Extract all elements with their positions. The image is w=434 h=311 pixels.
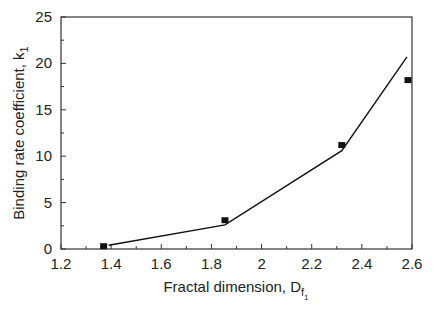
y-tick-label: 0 (44, 240, 52, 257)
y-tick-label: 5 (44, 194, 52, 211)
x-tick-label: 2.2 (301, 255, 322, 272)
x-tick-label: 1.2 (51, 255, 72, 272)
x-tick-label: 2.6 (402, 255, 423, 272)
chart: 1.21.41.61.822.22.42.6 0510152025 Fracta… (0, 0, 434, 311)
y-axis-title: Binding rate coefficient, k1 (10, 46, 30, 219)
x-tick-label: 1.6 (151, 255, 172, 272)
x-tick-label: 2.4 (351, 255, 372, 272)
x-axis-title: Fractal dimension, Df1 (163, 278, 309, 302)
data-point-square (221, 217, 228, 223)
data-points (100, 77, 411, 249)
plot-frame (61, 17, 412, 249)
y-tick-label: 10 (35, 147, 52, 164)
x-tick-label: 1.4 (101, 255, 122, 272)
data-point-square (404, 77, 411, 83)
y-tick-label: 25 (35, 8, 52, 25)
y-tick-label: 20 (35, 54, 52, 71)
fit-line-path (109, 57, 407, 245)
x-tick-label: 2 (257, 255, 265, 272)
plot-border (61, 17, 412, 249)
y-tick-label: 15 (35, 101, 52, 118)
fit-line (109, 57, 407, 245)
data-point-square (100, 243, 107, 249)
data-point-square (338, 142, 345, 148)
x-tick-label: 1.8 (201, 255, 222, 272)
